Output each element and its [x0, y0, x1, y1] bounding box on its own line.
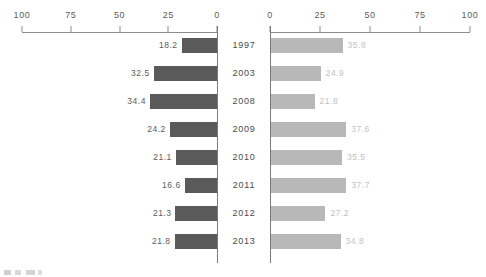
category-label-1997: 1997	[218, 40, 270, 51]
bar-left	[170, 122, 217, 137]
bar-rows: 18.2199735.832.5200324.934.4200821.824.2…	[0, 38, 486, 262]
chart-row: 32.5200324.9	[0, 66, 486, 94]
bar-right-value-label: 35.5	[347, 152, 366, 163]
axis-tick-label: 50	[114, 10, 125, 20]
bar-left	[176, 150, 217, 165]
axis-tick	[320, 26, 321, 32]
axis-tick-label: 25	[314, 10, 325, 20]
bar-right	[271, 150, 342, 165]
category-label-2008: 2008	[218, 96, 270, 107]
bar-left-value-label: 18.2	[159, 40, 178, 51]
bar-left	[150, 94, 217, 109]
axis-tick-label: 75	[414, 10, 425, 20]
chart-row: 34.4200821.8	[0, 94, 486, 122]
axis-tick-label: 75	[65, 10, 76, 20]
bar-right	[271, 122, 346, 137]
left-axis-line	[22, 32, 217, 33]
right-axis: 0255075100	[270, 10, 470, 36]
bar-left	[182, 38, 217, 53]
bar-right	[271, 66, 321, 81]
bar-left	[154, 66, 217, 81]
bar-right	[271, 206, 325, 221]
bar-right-value-label: 27.2	[330, 208, 349, 219]
chart-row: 21.8201334.8	[0, 234, 486, 262]
chart-row: 16.6201137.7	[0, 178, 486, 206]
category-label-2009: 2009	[218, 124, 270, 135]
right-axis-line	[270, 32, 470, 33]
category-label-2012: 2012	[218, 208, 270, 219]
bar-right	[271, 38, 343, 53]
bar-right	[271, 94, 315, 109]
category-label-2011: 2011	[218, 180, 270, 191]
chart-row: 21.1201035.5	[0, 150, 486, 178]
axis-tick	[420, 26, 421, 32]
bar-right-value-label: 34.8	[346, 236, 365, 247]
bar-left-value-label: 34.4	[127, 96, 146, 107]
bar-left-value-label: 24.2	[147, 124, 166, 135]
bar-right-value-label: 21.8	[320, 96, 339, 107]
axis-tick	[22, 26, 23, 32]
category-label-2010: 2010	[218, 152, 270, 163]
bar-right-value-label: 37.6	[351, 124, 370, 135]
axis-tick-label: 0	[214, 10, 220, 20]
axis-tick-label: 100	[462, 10, 479, 20]
axis-tick	[70, 26, 71, 32]
bar-left-value-label: 21.3	[153, 208, 172, 219]
scan-artifact	[4, 270, 42, 275]
bar-right	[271, 178, 346, 193]
left-axis: 1007550250	[22, 10, 217, 36]
bar-right-value-label: 35.8	[348, 40, 367, 51]
category-label-2013: 2013	[218, 236, 270, 247]
axis-tick	[168, 26, 169, 32]
axis-tick-label: 25	[163, 10, 174, 20]
bar-left	[185, 178, 217, 193]
chart-row: 24.2200937.6	[0, 122, 486, 150]
diverging-bar-chart: 1007550250 0255075100 18.2199735.832.520…	[0, 0, 486, 277]
bar-right	[271, 234, 341, 249]
bar-right-value-label: 24.9	[326, 68, 345, 79]
chart-row: 18.2199735.8	[0, 38, 486, 66]
bar-left-value-label: 21.8	[152, 236, 171, 247]
chart-row: 21.3201227.2	[0, 206, 486, 234]
axis-tick-label: 0	[267, 10, 273, 20]
bar-left-value-label: 16.6	[162, 180, 181, 191]
bar-left	[175, 234, 218, 249]
bar-left-value-label: 32.5	[131, 68, 150, 79]
axis-tick-label: 50	[364, 10, 375, 20]
bar-right-value-label: 37.7	[351, 180, 370, 191]
bar-left-value-label: 21.1	[153, 152, 172, 163]
axis-tick	[470, 26, 471, 32]
axis-tick	[370, 26, 371, 32]
axis-tick-label: 100	[14, 10, 31, 20]
category-label-2003: 2003	[218, 68, 270, 79]
axis-tick	[119, 26, 120, 32]
bar-left	[175, 206, 217, 221]
